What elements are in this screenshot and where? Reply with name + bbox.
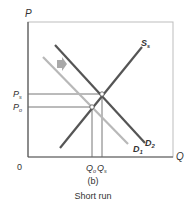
diagram-caption: Short run — [74, 191, 111, 201]
panel-label: (b) — [88, 176, 99, 186]
plot-frame — [28, 22, 173, 157]
right-arrow-icon — [57, 57, 67, 71]
quantity-axis-label: Q — [176, 151, 184, 162]
original-equilibrium-point — [90, 105, 94, 109]
short-run-equilibrium-point — [100, 92, 104, 96]
d1-curve-label: D1 — [133, 144, 144, 155]
demand-curve-d1 — [43, 57, 128, 144]
po-label: Po — [13, 102, 22, 113]
short-run-supply-demand-diagram: P Q 0 Ps Po Qo Qs Ss D2 D1 (b) Short run — [0, 0, 187, 204]
supply-curve-label: Ss — [141, 38, 150, 49]
supply-curve-ss — [60, 47, 142, 148]
origin-label: 0 — [17, 162, 22, 172]
price-axis-label: P — [25, 8, 32, 19]
qo-label: Qo — [86, 163, 96, 174]
d2-curve-label: D2 — [145, 138, 156, 149]
qs-label: Qs — [97, 163, 107, 174]
ps-label: Ps — [13, 89, 22, 100]
